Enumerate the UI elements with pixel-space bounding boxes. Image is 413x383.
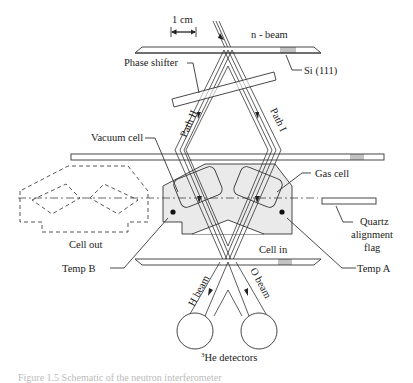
gas-cell-label: Gas cell bbox=[315, 168, 349, 179]
detectors-label: 3He detectors bbox=[201, 351, 257, 363]
quartz-flag bbox=[322, 198, 376, 204]
quartz-leader bbox=[336, 206, 353, 222]
scale-bar: 1 cm bbox=[171, 14, 196, 37]
vacuum-cell-label: Vacuum cell bbox=[91, 132, 143, 143]
phase-shifter bbox=[172, 72, 276, 107]
phase-shifter-leader bbox=[187, 63, 199, 93]
interferometer-diagram: 1 cm n - beam Si (111) bbox=[0, 0, 413, 383]
o-detector bbox=[241, 313, 277, 349]
cell-out-label: Cell out bbox=[69, 239, 103, 250]
temp-a-label: Temp A bbox=[357, 263, 391, 274]
n-beam-label: n - beam bbox=[251, 29, 288, 40]
figure-caption: Figure 1.5 Schematic of the neutron inte… bbox=[18, 372, 222, 383]
phase-shifter-label: Phase shifter bbox=[124, 57, 178, 68]
quartz-label-3: flag bbox=[364, 242, 381, 253]
quartz-label-1: Quartz bbox=[360, 216, 389, 227]
scale-label: 1 cm bbox=[172, 14, 193, 25]
cell-out-outline bbox=[20, 166, 148, 232]
temp-b-label: Temp B bbox=[62, 263, 95, 274]
crystal-slab-middle bbox=[71, 154, 384, 160]
quartz-label-2: alignment bbox=[351, 229, 393, 240]
incoming-beam bbox=[213, 21, 232, 50]
si-leader bbox=[286, 55, 302, 70]
cell-in-body bbox=[163, 164, 292, 234]
h-detector bbox=[177, 313, 213, 349]
temp-b-sensor bbox=[170, 209, 175, 214]
temp-a-sensor bbox=[279, 209, 284, 214]
si-label: Si (111) bbox=[304, 65, 338, 77]
cell-in-label: Cell in bbox=[259, 244, 288, 255]
path-two-label: Path II bbox=[178, 108, 200, 139]
h-beam-label: H beam bbox=[186, 274, 211, 308]
o-beam-label: O beam bbox=[248, 266, 273, 300]
